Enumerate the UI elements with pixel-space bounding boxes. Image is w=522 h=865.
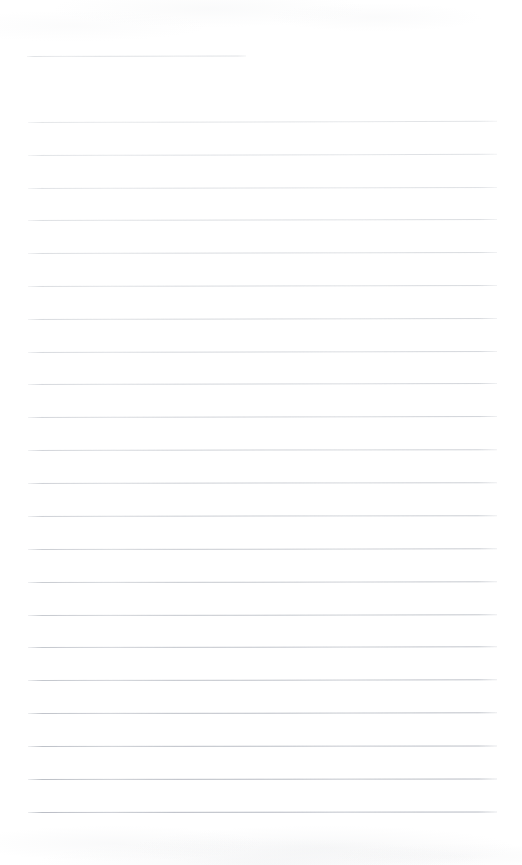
ruled-line — [28, 482, 497, 484]
rule-ink — [28, 778, 497, 780]
header-blank-rule — [27, 56, 246, 57]
ruled-line — [28, 219, 497, 221]
rule-ink — [28, 646, 497, 648]
ruled-line — [28, 121, 497, 123]
rule-ink — [28, 318, 497, 320]
ruled-lines-layer — [0, 0, 522, 865]
ruled-line — [28, 679, 497, 681]
rule-ink — [28, 187, 497, 189]
rule-ink — [28, 219, 497, 221]
ruled-line — [28, 252, 497, 254]
ruled-line — [28, 416, 497, 418]
rule-ink — [28, 285, 497, 287]
ruled-line — [28, 548, 497, 550]
rule-ink — [28, 812, 497, 813]
ruled-line — [28, 187, 497, 189]
ruled-line — [28, 745, 497, 747]
ruled-line — [28, 581, 497, 583]
rule-ink — [28, 614, 497, 616]
rule-ink — [28, 515, 497, 517]
rule-ink — [28, 383, 497, 385]
rule-ink — [28, 745, 497, 747]
rule-ink — [28, 154, 497, 156]
ruled-line — [28, 646, 497, 648]
ruled-line — [28, 383, 497, 385]
ruled-line — [28, 351, 497, 353]
rule-ink — [28, 679, 497, 681]
ruled-line — [28, 318, 497, 320]
rule-ink — [28, 482, 497, 484]
ruled-line — [28, 285, 497, 287]
ruled-line — [28, 778, 497, 780]
rule-ink — [28, 121, 497, 123]
ruled-line — [28, 712, 497, 714]
rule-ink — [28, 416, 497, 418]
rule-ink — [28, 548, 497, 550]
rule-ink — [27, 56, 246, 57]
ruled-line — [28, 515, 497, 517]
rule-ink — [28, 581, 497, 583]
rule-ink — [28, 712, 497, 714]
rule-ink — [28, 351, 497, 353]
rule-ink — [28, 252, 497, 254]
notebook-page — [0, 0, 522, 865]
ruled-line — [28, 614, 497, 616]
rule-ink — [28, 449, 497, 451]
ruled-line — [28, 812, 497, 813]
ruled-line — [28, 154, 497, 156]
ruled-line — [28, 449, 497, 451]
